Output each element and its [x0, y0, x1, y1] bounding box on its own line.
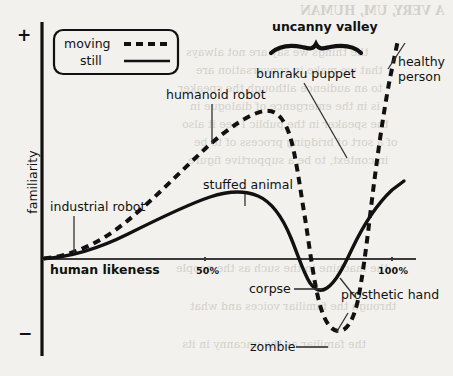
legend-label-moving: moving [64, 37, 111, 51]
legend-label-still: still [80, 54, 102, 68]
uncanny-valley-brace [271, 44, 361, 53]
annotation-industrial-robot: industrial robot [50, 200, 145, 214]
y-axis-label: familiarity [26, 137, 40, 227]
annotation-prosthetic-hand: prosthetic hand [341, 288, 439, 302]
leader-bunraku-puppet [304, 83, 347, 158]
annotation-uncanny-valley: uncanny valley [272, 20, 378, 34]
uncanny-valley-figure: A VERY, UM, HUMAN the things we say are … [0, 0, 453, 376]
annotation-healthy-person-line1: healthy [398, 55, 445, 69]
y-axis-positive-sign: + [17, 26, 31, 45]
annotation-healthy-person-line2: person [398, 70, 441, 84]
x-axis-label: human likeness [50, 263, 160, 277]
annotation-stuffed-animal: stuffed animal [203, 178, 293, 192]
y-axis-negative-sign: − [18, 324, 32, 343]
x-tick-label-100: 100% [378, 266, 408, 277]
annotation-bunraku-puppet: bunraku puppet [256, 67, 356, 81]
annotation-zombie: zombie [250, 340, 295, 354]
annotation-corpse: corpse [249, 282, 291, 296]
annotation-humanoid-robot: humanoid robot [166, 88, 266, 102]
x-tick-label-50: 50% [196, 266, 219, 277]
